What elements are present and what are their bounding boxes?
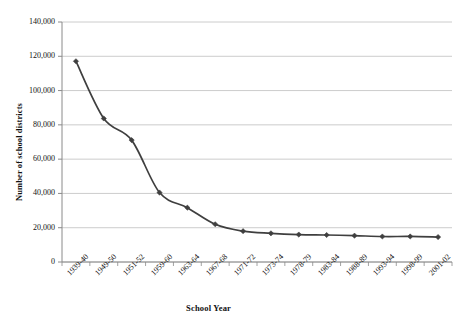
axis-ticks xyxy=(58,22,452,266)
series-markers xyxy=(73,59,440,240)
data-line xyxy=(76,61,438,237)
y-tick-label: 0 xyxy=(9,258,55,266)
data-point-marker xyxy=(268,231,273,236)
axis-lines xyxy=(62,22,452,262)
data-point-marker xyxy=(408,234,413,239)
data-point-marker xyxy=(296,232,301,237)
y-tick-label: 100,000 xyxy=(9,87,55,95)
gridlines xyxy=(62,22,452,262)
data-point-marker xyxy=(380,234,385,239)
data-point-marker xyxy=(435,234,440,239)
data-point-marker xyxy=(324,232,329,237)
data-point-marker xyxy=(213,222,218,227)
y-tick-label: 120,000 xyxy=(9,52,55,60)
y-tick-label: 60,000 xyxy=(9,155,55,163)
series-line xyxy=(76,61,438,237)
y-tick-label: 40,000 xyxy=(9,189,55,197)
y-tick-label: 80,000 xyxy=(9,121,55,129)
y-tick-label: 20,000 xyxy=(9,224,55,232)
y-tick-label: 140,000 xyxy=(9,18,55,26)
data-point-marker xyxy=(73,59,78,64)
data-point-marker xyxy=(240,229,245,234)
chart-container: Number of school districts School Year 0… xyxy=(0,0,472,325)
data-point-marker xyxy=(352,233,357,238)
